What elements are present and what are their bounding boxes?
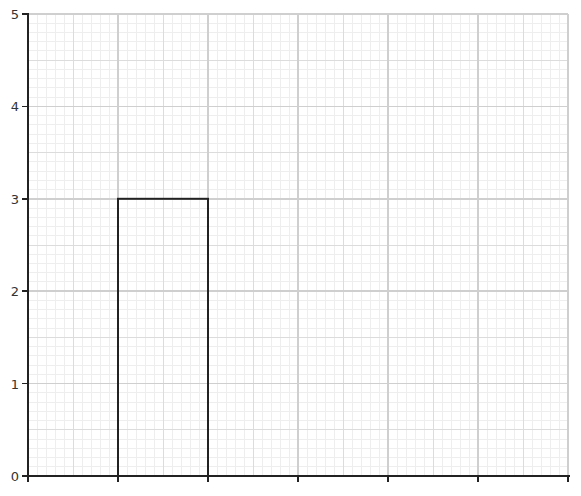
y-tick-label: 3 bbox=[11, 192, 19, 207]
y-axis-ticks: 012345 bbox=[11, 7, 28, 484]
y-tick-label: 1 bbox=[11, 377, 19, 392]
y-tick-label: 0 bbox=[11, 469, 19, 484]
y-tick-label: 2 bbox=[11, 284, 19, 299]
y-tick-label: 5 bbox=[11, 7, 19, 22]
bar-chart: 012345 bbox=[0, 0, 581, 496]
y-tick-label: 4 bbox=[11, 99, 19, 114]
